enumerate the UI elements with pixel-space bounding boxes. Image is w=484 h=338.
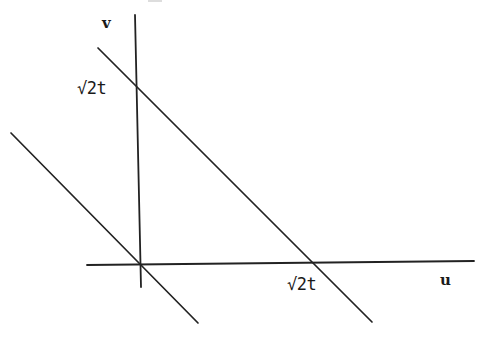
v-axis — [135, 15, 141, 287]
u-intercept-label: √2t — [287, 276, 316, 293]
u-axis-label: u — [440, 273, 450, 288]
line-through-origin — [11, 133, 198, 323]
u-axis — [87, 261, 474, 265]
uv-diagram — [0, 0, 484, 338]
v-axis-label: v — [102, 16, 110, 31]
v-intercept-label: √2t — [77, 80, 106, 97]
